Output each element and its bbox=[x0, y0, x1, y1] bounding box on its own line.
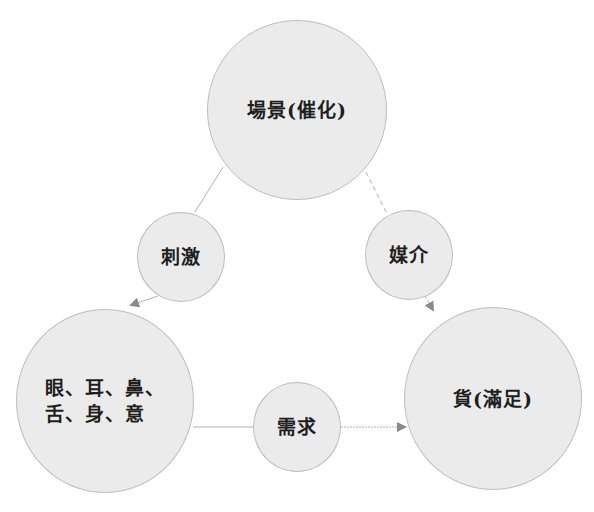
node-scene: 場景(催化) bbox=[207, 20, 387, 200]
node-senses-line-2: 舌、身、意 bbox=[45, 401, 165, 427]
node-senses-line-1: 眼、耳、鼻、 bbox=[45, 375, 165, 401]
edge-scene-stimulus bbox=[195, 167, 223, 212]
node-scene-label: 場景(催化) bbox=[247, 97, 347, 123]
node-medium-label: 媒介 bbox=[389, 242, 429, 268]
node-senses: 眼、耳、鼻、 舌、身、意 bbox=[16, 309, 194, 493]
node-stimulus: 刺激 bbox=[137, 212, 225, 302]
edge-scene-medium bbox=[366, 172, 386, 212]
edge-medium-goods bbox=[425, 296, 433, 310]
node-goods-label: 貨(滿足) bbox=[453, 386, 533, 412]
node-demand: 需求 bbox=[253, 382, 341, 472]
edge-stimulus-senses bbox=[131, 296, 158, 305]
node-medium: 媒介 bbox=[365, 210, 453, 300]
node-senses-label: 眼、耳、鼻、 舌、身、意 bbox=[45, 375, 165, 427]
node-demand-label: 需求 bbox=[277, 414, 317, 440]
node-stimulus-label: 刺激 bbox=[161, 244, 201, 270]
node-goods: 貨(滿足) bbox=[404, 307, 582, 490]
